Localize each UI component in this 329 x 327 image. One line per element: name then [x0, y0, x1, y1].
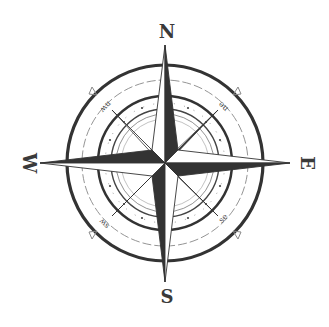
- compass-rose: N S W E nw ne sw se: [0, 0, 329, 327]
- label-northeast: ne: [216, 100, 230, 114]
- label-north: N: [159, 21, 175, 42]
- label-southwest: sw: [97, 217, 111, 231]
- label-south: S: [161, 286, 174, 307]
- cardinal-points: [40, 45, 290, 282]
- label-northwest: nw: [98, 99, 113, 114]
- label-east: E: [297, 156, 318, 170]
- label-southeast: se: [217, 212, 230, 225]
- label-west: W: [19, 152, 40, 174]
